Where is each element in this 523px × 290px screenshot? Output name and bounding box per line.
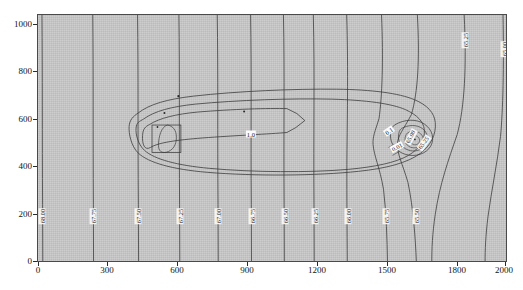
contour-label-67-50: 67.50 — [135, 208, 142, 224]
y-tick-200: 200 — [2, 210, 32, 219]
y-tickmark — [33, 71, 37, 72]
well-marker — [177, 95, 179, 97]
contour-label-66-25: 66.25 — [312, 208, 319, 224]
y-tick-0: 0 — [2, 257, 32, 266]
head-contour-67-00 — [217, 15, 218, 262]
y-tick-400: 400 — [2, 162, 32, 171]
head-contour-68-00 — [42, 15, 43, 262]
source-inner-contour — [158, 125, 176, 152]
y-tickmark — [33, 166, 37, 167]
well-marker — [157, 126, 159, 128]
contour-label-66-75: 66.75 — [249, 208, 256, 224]
contour-label-65-75: 65.75 — [383, 208, 390, 224]
x-tickmark — [107, 262, 108, 266]
x-tickmark — [38, 262, 39, 266]
y-tickmark — [33, 214, 37, 215]
contour-label-65-00: 65.00 — [501, 41, 508, 57]
x-tickmark — [457, 262, 458, 266]
head-contour-67-75 — [93, 15, 94, 262]
well-marker — [243, 111, 245, 113]
head-contour-66-50 — [283, 15, 284, 262]
contour-lines-layer — [38, 15, 506, 262]
y-tickmark — [33, 24, 37, 25]
x-tickmark — [317, 262, 318, 266]
x-tick-0: 0 — [36, 266, 41, 275]
y-tick-1000: 1000 — [2, 20, 32, 29]
head-contour-66-75 — [251, 15, 252, 262]
y-tick-600: 600 — [2, 115, 32, 124]
concentration-contour-1-0 — [142, 108, 304, 148]
well-marker — [163, 112, 165, 114]
contour-label-68-00: 68.00 — [39, 208, 46, 224]
x-tick-2000: 2000 — [495, 266, 513, 275]
contour-label-67-75: 67.75 — [90, 208, 97, 224]
head-contour-65-25 — [432, 15, 465, 262]
y-tick-800: 800 — [2, 67, 32, 76]
head-contour-66-00 — [347, 15, 348, 262]
contour-label-65-25: 65.25 — [462, 32, 469, 48]
contour-label-1-0: 1.0 — [246, 131, 256, 138]
x-tick-900: 900 — [240, 266, 254, 275]
x-tickmark — [247, 262, 248, 266]
head-contour-65-75 — [373, 15, 388, 262]
contour-plot-figure: 68.00 67.75 67.50 67.25 67.00 66.75 66.5… — [0, 0, 523, 290]
x-tick-1200: 1200 — [308, 266, 326, 275]
contour-label-66-00: 66.00 — [345, 208, 352, 224]
y-tickmark — [33, 119, 37, 120]
head-contour-67-25 — [179, 15, 180, 262]
contour-label-67-00: 67.00 — [215, 208, 222, 224]
head-contour-66-25 — [313, 15, 314, 262]
contour-label-67-25: 67.25 — [177, 208, 184, 224]
well-marker — [414, 139, 416, 141]
x-tickmark — [387, 262, 388, 266]
y-tickmark — [33, 261, 37, 262]
x-tick-600: 600 — [170, 266, 184, 275]
contour-label-66-50: 66.50 — [282, 208, 289, 224]
x-tick-1500: 1500 — [378, 266, 396, 275]
x-tickmark — [177, 262, 178, 266]
x-tick-300: 300 — [100, 266, 114, 275]
x-tickmark — [505, 262, 506, 266]
plot-area: 68.00 67.75 67.50 67.25 67.00 66.75 66.5… — [37, 14, 507, 262]
contour-label-65-50: 65.50 — [413, 208, 420, 224]
x-tick-1800: 1800 — [448, 266, 466, 275]
